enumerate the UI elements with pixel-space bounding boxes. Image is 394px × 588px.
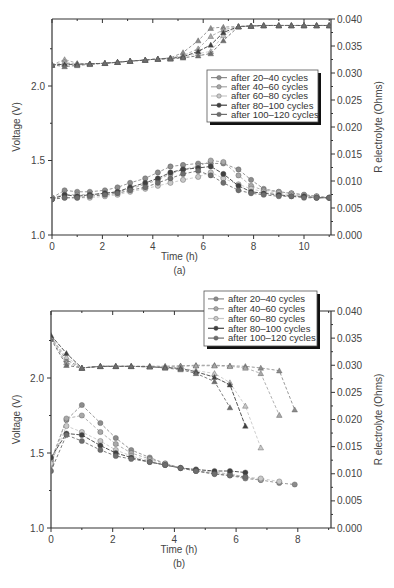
- voltage-series-0: [48, 402, 297, 487]
- panel-label: (b): [173, 558, 185, 569]
- circle-marker: [208, 164, 213, 169]
- circle-marker: [196, 168, 201, 173]
- series-line: [52, 161, 329, 198]
- y2-tick-label: 0.000: [337, 230, 362, 241]
- y-tick-label: 1.0: [30, 523, 44, 534]
- legend-marker: [217, 103, 221, 107]
- voltage-series-4: [49, 168, 331, 202]
- circle-marker: [208, 158, 213, 163]
- r-series-1: [49, 23, 332, 67]
- circle-marker: [168, 164, 173, 169]
- circle-marker: [62, 195, 67, 200]
- voltage-series-3: [48, 431, 248, 475]
- x-tick-label: 0: [49, 241, 55, 252]
- circle-marker: [208, 173, 213, 178]
- circle-marker: [196, 174, 201, 179]
- legend-label: after 100–120 cycles: [228, 332, 316, 343]
- circle-marker: [193, 468, 198, 473]
- circle-marker: [143, 185, 148, 190]
- y2-tick-label: 0.035: [337, 333, 362, 344]
- circle-marker: [79, 402, 84, 407]
- circle-marker: [261, 192, 266, 197]
- y2-tick-label: 0.040: [337, 306, 362, 317]
- triangle-marker: [208, 42, 214, 47]
- y-tick-label: 1.5: [31, 155, 45, 166]
- x-tick-label: 4: [150, 241, 156, 252]
- circle-marker: [115, 191, 120, 196]
- circle-marker: [221, 159, 226, 164]
- triangle-marker: [258, 371, 264, 376]
- triangle-marker: [64, 351, 70, 356]
- y2-tick-label: 0.005: [337, 203, 362, 214]
- circle-marker: [248, 177, 253, 182]
- circle-marker: [129, 456, 134, 461]
- circle-marker: [292, 482, 297, 487]
- triangle-marker: [195, 38, 201, 43]
- series-line: [52, 171, 329, 199]
- x-tick-label: 2: [100, 241, 106, 252]
- legend-label: after 100–120 cycles: [231, 109, 319, 120]
- legend: after 20–40 cyclesafter 40–60 cyclesafte…: [204, 291, 320, 349]
- y2-tick-label: 0.035: [337, 41, 362, 52]
- y2-tick-label: 0.010: [337, 468, 362, 479]
- circle-marker: [79, 438, 84, 443]
- r-series-4: [48, 336, 233, 409]
- circle-marker: [48, 468, 53, 473]
- circle-marker: [168, 176, 173, 181]
- circle-marker: [102, 192, 107, 197]
- triangle-marker: [243, 423, 249, 428]
- plot-area: [48, 333, 297, 487]
- y-axis-title: Voltage (V): [11, 102, 22, 151]
- triangle-marker: [276, 412, 282, 417]
- legend-marker: [217, 85, 221, 89]
- x-tick-label: 10: [298, 241, 310, 252]
- circle-marker: [212, 471, 217, 476]
- series-line: [52, 25, 329, 64]
- circle-marker: [87, 194, 92, 199]
- x-tick-label: 6: [233, 534, 239, 545]
- circle-marker: [180, 171, 185, 176]
- legend-marker: [217, 75, 221, 79]
- series-line: [52, 172, 329, 199]
- series-line: [52, 25, 329, 64]
- r-series-3: [49, 23, 332, 67]
- circle-marker: [113, 453, 118, 458]
- legend-marker: [214, 307, 218, 311]
- circle-marker: [168, 170, 173, 175]
- legend: after 20–40 cyclesafter 40–60 cyclesafte…: [207, 70, 321, 125]
- legend-marker: [214, 336, 218, 340]
- circle-marker: [277, 479, 282, 484]
- series-line: [51, 335, 245, 426]
- triangle-marker: [258, 445, 264, 450]
- circle-marker: [79, 432, 84, 437]
- figure: 02468101.01.52.00.0000.0050.0100.0150.02…: [0, 0, 394, 588]
- y2-tick-label: 0.025: [337, 387, 362, 398]
- y2-tick-label: 0.010: [337, 176, 362, 187]
- y-tick-label: 2.0: [31, 81, 45, 92]
- y-axis-title: Voltage (V): [11, 395, 22, 444]
- circle-marker: [64, 416, 69, 421]
- series-line: [52, 25, 329, 64]
- circle-marker: [221, 180, 226, 185]
- circle-marker: [64, 432, 69, 437]
- circle-marker: [155, 180, 160, 185]
- circle-marker: [48, 455, 53, 460]
- circle-marker: [248, 191, 253, 196]
- r-series-0: [49, 23, 332, 67]
- y2-tick-label: 0.030: [337, 68, 362, 79]
- chart-panel-a: 02468101.01.52.00.0000.0050.0100.0150.02…: [11, 14, 384, 277]
- legend-marker: [217, 112, 221, 116]
- r-series-2: [49, 23, 332, 67]
- circle-marker: [48, 461, 53, 466]
- triangle-marker: [292, 407, 298, 412]
- circle-marker: [314, 195, 319, 200]
- circle-marker: [289, 194, 294, 199]
- circle-marker: [79, 413, 84, 418]
- circle-marker: [128, 188, 133, 193]
- y2-tick-label: 0.020: [337, 122, 362, 133]
- circle-marker: [98, 447, 103, 452]
- triangle-marker: [208, 33, 214, 38]
- circle-marker: [147, 459, 152, 464]
- circle-marker: [113, 441, 118, 446]
- x-axis-title: Time (h): [161, 544, 198, 555]
